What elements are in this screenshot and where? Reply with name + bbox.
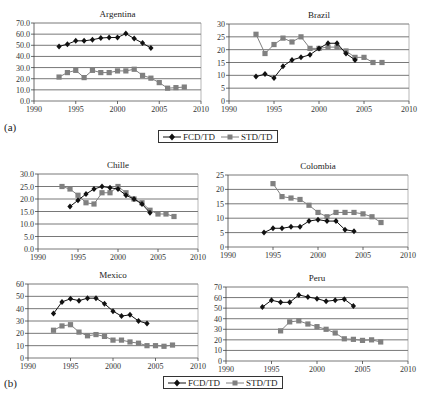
diamond-marker-icon [163, 133, 181, 141]
x-tick-label: 2010 [190, 253, 206, 262]
x-tick-label: 1990 [20, 362, 36, 371]
x-tick-label: 2010 [190, 362, 206, 371]
x-tick-label: 1995 [264, 365, 280, 374]
x-tick-label: 2005 [356, 105, 372, 114]
legend-item-fcd: FCD/TD [168, 378, 220, 388]
y-tick-label: 5.0 [24, 233, 34, 242]
x-tick-label: 2005 [355, 365, 371, 374]
y-tick-label: 30 [16, 317, 24, 326]
y-tick-label: 10 [16, 342, 24, 351]
x-tick-label: 1990 [30, 253, 46, 262]
chart-title: Argentina [100, 9, 136, 19]
chart-figure: Argentina0.010.020.030.040.050.060.070.0… [0, 0, 431, 406]
x-tick-label: 1995 [266, 105, 282, 114]
chart-peru: Peru01020304050607019901995200020052010 [214, 273, 416, 374]
diamond-marker-icon [168, 379, 186, 387]
x-tick-label: 1995 [63, 362, 79, 371]
x-tick-label: 2000 [309, 365, 325, 374]
legend-item-fcd: FCD/TD [163, 132, 215, 142]
x-tick-label: 2000 [110, 253, 126, 262]
y-tick-label: 50 [16, 292, 24, 301]
y-tick-label: 70 [214, 283, 222, 292]
y-tick-label: 20 [217, 46, 225, 55]
y-tick-label: 20 [16, 329, 24, 338]
x-tick-label: 1990 [220, 251, 236, 260]
chart-chille: Chille0.05.010.015.020.025.030.019901995… [20, 160, 206, 262]
y-tick-label: 30.0 [16, 64, 30, 73]
x-tick-label: 1990 [221, 105, 237, 114]
legend-a: FCD/TD STD/TD [158, 130, 278, 143]
x-tick-label: 2000 [105, 362, 121, 371]
legend-label-fcd: FCD/TD [183, 132, 215, 142]
x-tick-label: 1995 [68, 105, 84, 114]
y-tick-label: 15.0 [20, 208, 34, 217]
x-tick-label: 1990 [218, 365, 234, 374]
x-tick-label: 2005 [148, 362, 164, 371]
chart-brazil: Brazil05101520253019901995200020052010 [217, 10, 417, 114]
y-tick-label: 60 [16, 280, 24, 289]
y-tick-label: 10.0 [16, 86, 30, 95]
y-tick-label: 20.0 [16, 75, 30, 84]
x-tick-label: 1995 [70, 253, 86, 262]
y-tick-label: 10 [214, 346, 222, 355]
panel-label-a: (a) [4, 121, 16, 133]
y-tick-label: 5 [220, 229, 224, 238]
y-tick-label: 40 [16, 305, 24, 314]
x-tick-label: 2000 [310, 251, 326, 260]
y-tick-label: 40.0 [16, 52, 30, 61]
legend-b: FCD/TD STD/TD [163, 376, 283, 389]
y-tick-label: 70.0 [16, 19, 30, 28]
x-tick-label: 2010 [193, 105, 209, 114]
y-tick-label: 20 [216, 185, 224, 194]
y-tick-label: 10.0 [20, 220, 34, 229]
y-tick-label: 25 [217, 33, 225, 42]
x-tick-label: 2000 [110, 105, 126, 114]
legend-label-fcd: FCD/TD [188, 378, 220, 388]
y-tick-label: 15 [217, 59, 225, 68]
y-tick-label: 15 [216, 200, 224, 209]
chart-colombia: Colombia051015202519901995200020052010 [216, 161, 416, 260]
legend-item-std: STD/TD [226, 378, 278, 388]
chart-title: Mexico [99, 270, 127, 280]
y-tick-label: 50.0 [16, 41, 30, 50]
y-tick-label: 60.0 [16, 30, 30, 39]
y-tick-label: 60 [214, 294, 222, 303]
square-marker-icon [221, 133, 239, 141]
chart-title: Colombia [300, 161, 336, 171]
x-tick-label: 1990 [26, 105, 42, 114]
x-tick-label: 1995 [265, 251, 281, 260]
y-tick-label: 40 [214, 315, 222, 324]
x-tick-label: 2005 [355, 251, 371, 260]
chart-argentina: Argentina0.010.020.030.040.050.060.070.0… [16, 9, 209, 114]
y-tick-label: 20.0 [20, 195, 34, 204]
chart-title: Peru [309, 273, 326, 283]
y-tick-label: 25 [216, 171, 224, 180]
x-tick-label: 2010 [401, 105, 417, 114]
legend-label-std: STD/TD [241, 132, 273, 142]
legend-label-std: STD/TD [246, 378, 278, 388]
chart-title: Chille [107, 160, 129, 170]
y-tick-label: 50 [214, 304, 222, 313]
x-tick-label: 2005 [151, 105, 167, 114]
legend-item-std: STD/TD [221, 132, 273, 142]
panel-label-b: (b) [4, 377, 17, 389]
y-tick-label: 30.0 [20, 170, 34, 179]
chart-mexico: Mexico010203040506019901995200020052010 [16, 270, 206, 371]
y-tick-label: 20 [214, 336, 222, 345]
y-tick-label: 10 [217, 71, 225, 80]
x-tick-label: 2010 [400, 365, 416, 374]
y-tick-label: 5 [221, 84, 225, 93]
y-tick-label: 25.0 [20, 183, 34, 192]
y-tick-label: 30 [214, 325, 222, 334]
y-tick-label: 10 [216, 214, 224, 223]
x-tick-label: 2005 [150, 253, 166, 262]
square-marker-icon [226, 379, 244, 387]
chart-title: Brazil [308, 10, 330, 20]
x-tick-label: 2000 [311, 105, 327, 114]
x-tick-label: 2010 [400, 251, 416, 260]
y-tick-label: 30 [217, 20, 225, 29]
